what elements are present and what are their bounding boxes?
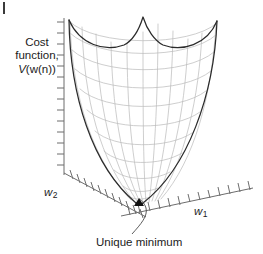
axes-group	[57, 18, 253, 218]
unique-minimum-annotation-text: Unique minimum	[96, 236, 182, 249]
cost-label-args: (w(n))	[26, 63, 56, 75]
cost-label-line2: function,	[15, 49, 58, 61]
w2-subscript: 2	[52, 190, 57, 200]
w2-axis-line	[64, 173, 146, 217]
w1-subscript: 1	[202, 209, 207, 219]
page-crop-mark	[3, 2, 5, 14]
cost-function-axis-label: Cost function, V(w(n))	[6, 36, 68, 76]
w1-axis-label: w1	[194, 205, 207, 220]
surface-right-edge	[143, 21, 217, 203]
cost-function-surface-figure: Cost function, V(w(n)) w2 w1 Unique mini…	[0, 0, 263, 254]
cost-label-symbol: V	[18, 63, 26, 75]
cost-label-line1: Cost	[25, 36, 49, 48]
surface-mesh-u-lines	[70, 22, 216, 202]
w2-axis-label: w2	[44, 186, 57, 201]
